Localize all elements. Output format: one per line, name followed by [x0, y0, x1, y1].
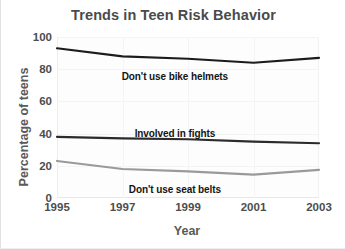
series-line [57, 161, 319, 175]
y-tick-label: 80 [39, 63, 52, 75]
x-tick-label: 2003 [306, 201, 332, 213]
y-tick-label: 40 [39, 128, 52, 140]
x-tick-label: 1999 [175, 201, 201, 213]
chart-title: Trends in Teen Risk Behavior [1, 7, 345, 23]
plot-area: 020406080100 19951997199920012003 Don't … [57, 37, 319, 198]
x-axis-label: Year [57, 224, 317, 238]
x-tick-label: 2001 [241, 201, 267, 213]
series-label: Involved in fights [135, 128, 215, 139]
y-axis-label: Percentage of teens [17, 57, 31, 197]
series-line [57, 48, 319, 62]
series-label: Don't use seat belts [129, 184, 221, 195]
y-tick-label: 100 [33, 31, 52, 43]
series-lines [57, 37, 319, 198]
x-tick-label: 1995 [44, 201, 70, 213]
y-tick-label: 20 [39, 160, 52, 172]
y-tick-label: 60 [39, 95, 52, 107]
chart-figure: Trends in Teen Risk Behavior Percentage … [0, 0, 345, 249]
series-label: Don't use bike helmets [122, 71, 228, 82]
x-tick-label: 1997 [110, 201, 136, 213]
